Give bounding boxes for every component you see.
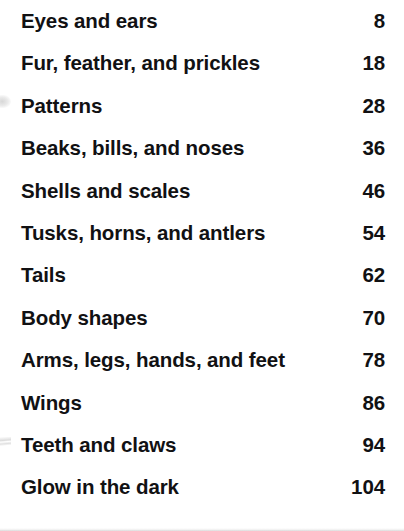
toc-entry-title: Shells and scales <box>21 170 339 212</box>
toc-entry-title: Glow in the dark <box>21 466 339 508</box>
table-of-contents-page: Eyes and ears8Fur, feather, and prickles… <box>0 0 404 531</box>
toc-entry[interactable]: Tails62 <box>0 254 404 296</box>
toc-entry[interactable]: Tusks, horns, and antlers54 <box>0 212 404 254</box>
toc-entry-page-number: 104 <box>339 466 385 508</box>
toc-entry-page-number: 36 <box>339 127 385 169</box>
toc-entry-title: Beaks, bills, and noses <box>21 127 339 169</box>
toc-entry[interactable]: Glow in the dark104 <box>0 466 404 508</box>
table-of-contents-list: Eyes and ears8Fur, feather, and prickles… <box>0 0 404 509</box>
toc-entry-page-number: 28 <box>339 85 385 127</box>
toc-entry-title: Teeth and claws <box>21 424 339 466</box>
toc-entry-page-number: 18 <box>339 42 385 84</box>
toc-entry-page-number: 94 <box>339 424 385 466</box>
toc-entry[interactable]: Fur, feather, and prickles18 <box>0 42 404 84</box>
toc-entry-page-number: 86 <box>339 382 385 424</box>
toc-entry-title: Body shapes <box>21 297 339 339</box>
toc-entry-page-number: 8 <box>339 0 385 42</box>
toc-entry-title: Tusks, horns, and antlers <box>21 212 339 254</box>
toc-entry-page-number: 78 <box>339 339 385 381</box>
toc-entry[interactable]: Shells and scales46 <box>0 170 404 212</box>
toc-entry-title: Eyes and ears <box>21 0 339 42</box>
toc-entry-page-number: 54 <box>339 212 385 254</box>
toc-entry[interactable]: Teeth and claws94 <box>0 424 404 466</box>
toc-entry-title: Arms, legs, hands, and feet <box>21 339 339 381</box>
toc-entry-title: Tails <box>21 254 339 296</box>
toc-entry-page-number: 70 <box>339 297 385 339</box>
toc-entry[interactable]: Beaks, bills, and noses36 <box>0 127 404 169</box>
toc-entry[interactable]: Patterns28 <box>0 85 404 127</box>
toc-entry-page-number: 62 <box>339 254 385 296</box>
toc-entry[interactable]: Wings86 <box>0 382 404 424</box>
toc-entry-title: Patterns <box>21 85 339 127</box>
toc-entry-title: Fur, feather, and prickles <box>21 42 339 84</box>
toc-entry[interactable]: Arms, legs, hands, and feet78 <box>0 339 404 381</box>
toc-entry[interactable]: Body shapes70 <box>0 297 404 339</box>
toc-entry-page-number: 46 <box>339 170 385 212</box>
toc-entry-title: Wings <box>21 382 339 424</box>
toc-entry[interactable]: Eyes and ears8 <box>0 0 404 42</box>
